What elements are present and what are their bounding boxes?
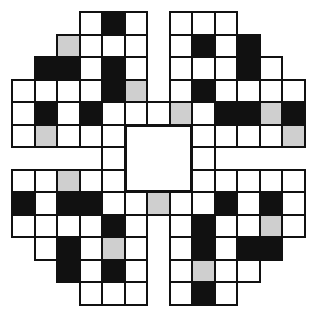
grid-cell[interactable] xyxy=(124,101,149,126)
shaded-cell[interactable] xyxy=(259,101,284,126)
grid-cell[interactable] xyxy=(191,146,216,171)
black-cell xyxy=(191,214,216,239)
grid-cell[interactable] xyxy=(79,79,104,104)
black-cell xyxy=(34,56,59,81)
grid-cell[interactable] xyxy=(34,191,59,216)
grid-cell[interactable] xyxy=(191,56,216,81)
grid-cell[interactable] xyxy=(169,281,194,306)
grid-cell[interactable] xyxy=(214,214,239,239)
black-cell xyxy=(191,79,216,104)
grid-cell[interactable] xyxy=(281,79,306,104)
grid-cell[interactable] xyxy=(79,214,104,239)
shaded-cell[interactable] xyxy=(191,259,216,284)
black-cell xyxy=(236,34,261,59)
black-cell xyxy=(79,101,104,126)
grid-cell[interactable] xyxy=(124,214,149,239)
grid-cell[interactable] xyxy=(214,124,239,149)
grid-cell[interactable] xyxy=(214,11,239,36)
grid-cell[interactable] xyxy=(101,34,126,59)
shaded-cell[interactable] xyxy=(56,169,81,194)
grid-cell[interactable] xyxy=(191,11,216,36)
grid-cell[interactable] xyxy=(79,236,104,261)
shaded-cell[interactable] xyxy=(101,236,126,261)
shaded-cell[interactable] xyxy=(259,214,284,239)
grid-cell[interactable] xyxy=(34,79,59,104)
grid-cell[interactable] xyxy=(101,281,126,306)
grid-cell[interactable] xyxy=(169,259,194,284)
grid-cell[interactable] xyxy=(169,79,194,104)
grid-cell[interactable] xyxy=(214,79,239,104)
black-cell xyxy=(191,281,216,306)
grid-cell[interactable] xyxy=(259,124,284,149)
grid-cell[interactable] xyxy=(124,11,149,36)
grid-cell[interactable] xyxy=(259,169,284,194)
grid-cell[interactable] xyxy=(214,56,239,81)
grid-cell[interactable] xyxy=(191,101,216,126)
grid-cell[interactable] xyxy=(56,101,81,126)
grid-cell[interactable] xyxy=(236,259,261,284)
grid-cell[interactable] xyxy=(101,169,126,194)
grid-cell[interactable] xyxy=(236,191,261,216)
grid-cell[interactable] xyxy=(11,169,36,194)
grid-cell[interactable] xyxy=(34,169,59,194)
grid-cell[interactable] xyxy=(79,11,104,36)
shaded-cell[interactable] xyxy=(169,101,194,126)
grid-cell[interactable] xyxy=(214,169,239,194)
grid-cell[interactable] xyxy=(124,56,149,81)
grid-cell[interactable] xyxy=(236,169,261,194)
grid-cell[interactable] xyxy=(281,169,306,194)
grid-cell[interactable] xyxy=(124,34,149,59)
grid-cell[interactable] xyxy=(11,101,36,126)
grid-cell[interactable] xyxy=(191,124,216,149)
shaded-cell[interactable] xyxy=(124,79,149,104)
grid-cell[interactable] xyxy=(259,56,284,81)
grid-cell[interactable] xyxy=(214,34,239,59)
shaded-cell[interactable] xyxy=(34,124,59,149)
grid-cell[interactable] xyxy=(101,124,126,149)
grid-cell[interactable] xyxy=(214,259,239,284)
grid-cell[interactable] xyxy=(34,214,59,239)
grid-cell[interactable] xyxy=(169,214,194,239)
grid-cell[interactable] xyxy=(101,191,126,216)
grid-cell[interactable] xyxy=(79,169,104,194)
grid-cell[interactable] xyxy=(79,259,104,284)
grid-cell[interactable] xyxy=(169,11,194,36)
grid-cell[interactable] xyxy=(281,191,306,216)
grid-cell[interactable] xyxy=(236,79,261,104)
grid-cell[interactable] xyxy=(124,236,149,261)
grid-cell[interactable] xyxy=(11,214,36,239)
grid-cell[interactable] xyxy=(56,214,81,239)
grid-cell[interactable] xyxy=(281,214,306,239)
black-cell xyxy=(281,101,306,126)
grid-cell[interactable] xyxy=(79,34,104,59)
grid-cell[interactable] xyxy=(79,56,104,81)
grid-cell[interactable] xyxy=(146,101,171,126)
grid-cell[interactable] xyxy=(34,236,59,261)
grid-cell[interactable] xyxy=(56,79,81,104)
shaded-cell[interactable] xyxy=(146,191,171,216)
grid-cell[interactable] xyxy=(214,236,239,261)
shaded-cell[interactable] xyxy=(56,34,81,59)
grid-cell[interactable] xyxy=(169,56,194,81)
grid-cell[interactable] xyxy=(259,79,284,104)
grid-cell[interactable] xyxy=(101,146,126,171)
grid-cell[interactable] xyxy=(214,281,239,306)
shaded-cell[interactable] xyxy=(281,124,306,149)
black-cell xyxy=(214,191,239,216)
grid-cell[interactable] xyxy=(79,124,104,149)
grid-cell[interactable] xyxy=(124,259,149,284)
grid-cell[interactable] xyxy=(11,124,36,149)
grid-cell[interactable] xyxy=(124,281,149,306)
grid-cell[interactable] xyxy=(236,214,261,239)
grid-cell[interactable] xyxy=(11,79,36,104)
grid-cell[interactable] xyxy=(191,191,216,216)
grid-cell[interactable] xyxy=(169,236,194,261)
grid-cell[interactable] xyxy=(79,281,104,306)
grid-cell[interactable] xyxy=(124,191,149,216)
grid-cell[interactable] xyxy=(236,124,261,149)
grid-cell[interactable] xyxy=(169,34,194,59)
grid-cell[interactable] xyxy=(101,101,126,126)
grid-cell[interactable] xyxy=(56,124,81,149)
grid-cell[interactable] xyxy=(169,191,194,216)
grid-cell[interactable] xyxy=(191,169,216,194)
